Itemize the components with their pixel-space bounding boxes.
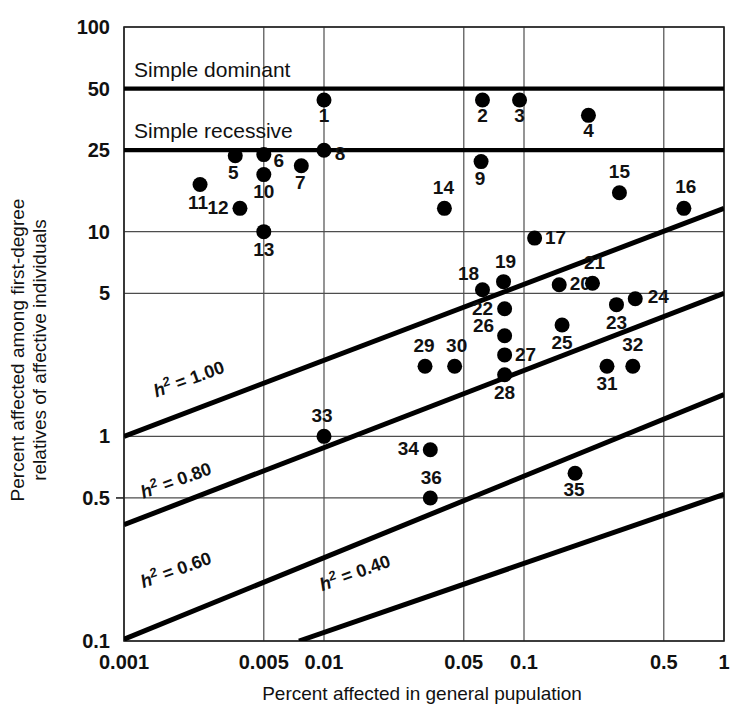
y-axis-tick-labels: 100502510510.50.1 bbox=[77, 16, 124, 652]
point-label-35: 35 bbox=[563, 479, 585, 500]
plot-canvas: 0.0010.0050.010.050.10.51 100502510510.5… bbox=[0, 0, 749, 726]
data-point-34: 34 bbox=[398, 438, 438, 459]
point-marker-32 bbox=[625, 359, 640, 374]
point-marker-31 bbox=[599, 359, 614, 374]
data-point-17: 17 bbox=[527, 227, 566, 248]
point-marker-11 bbox=[193, 177, 208, 192]
data-point-23: 23 bbox=[606, 297, 627, 333]
data-point-4: 4 bbox=[581, 108, 596, 142]
y-axis-title-line2: relatives of affective individuals bbox=[29, 219, 50, 481]
heritability-scatter-figure: 0.0010.0050.010.050.10.51 100502510510.5… bbox=[0, 0, 749, 726]
point-marker-29 bbox=[418, 359, 433, 374]
point-label-3: 3 bbox=[514, 105, 525, 126]
h2-0.60-label: h2 = 0.60 bbox=[137, 545, 214, 592]
point-label-21: 21 bbox=[584, 252, 606, 273]
point-marker-6 bbox=[256, 147, 271, 162]
point-marker-20 bbox=[552, 277, 567, 292]
point-label-34: 34 bbox=[398, 438, 420, 459]
data-point-11: 11 bbox=[188, 177, 209, 213]
point-marker-26 bbox=[497, 328, 512, 343]
point-label-6: 6 bbox=[274, 150, 285, 171]
point-label-10: 10 bbox=[253, 181, 274, 202]
data-point-10: 10 bbox=[253, 167, 274, 202]
data-point-33: 33 bbox=[311, 405, 332, 444]
point-marker-19 bbox=[496, 274, 511, 289]
point-marker-36 bbox=[423, 490, 438, 505]
data-point-8: 8 bbox=[317, 143, 346, 165]
point-label-32: 32 bbox=[622, 334, 643, 355]
point-label-2: 2 bbox=[477, 105, 488, 126]
y-tick-label-5: 5 bbox=[99, 282, 110, 304]
h2-0.60-line bbox=[124, 395, 724, 640]
data-point-31: 31 bbox=[596, 359, 618, 395]
point-label-1: 1 bbox=[319, 105, 330, 126]
point-label-24: 24 bbox=[648, 286, 670, 307]
point-label-30: 30 bbox=[446, 335, 467, 356]
data-point-26: 26 bbox=[473, 315, 512, 344]
point-label-11: 11 bbox=[188, 192, 209, 213]
y-tick-label-0.5: 0.5 bbox=[82, 487, 110, 509]
reference-line-labels: Simple dominantSimple recessive bbox=[134, 58, 293, 143]
heritability-line-labels: h2 = 1.00h2 = 0.80h2 = 0.60h2 = 0.40 bbox=[137, 354, 393, 595]
data-point-14: 14 bbox=[433, 177, 455, 216]
point-marker-12 bbox=[232, 201, 247, 216]
data-point-1: 1 bbox=[317, 92, 332, 126]
data-point-15: 15 bbox=[609, 161, 631, 201]
y-tick-label-50: 50 bbox=[88, 78, 110, 100]
point-label-13: 13 bbox=[253, 239, 274, 260]
simple-dominant-label: Simple dominant bbox=[134, 58, 291, 81]
point-label-36: 36 bbox=[421, 467, 442, 488]
data-point-19: 19 bbox=[495, 251, 516, 290]
data-point-29: 29 bbox=[413, 335, 434, 374]
data-point-18: 18 bbox=[458, 263, 490, 298]
x-axis-title: Percent affected in general pupulation bbox=[262, 683, 582, 704]
point-marker-33 bbox=[317, 429, 332, 444]
point-marker-8 bbox=[317, 143, 332, 158]
point-marker-23 bbox=[609, 297, 624, 312]
point-label-25: 25 bbox=[551, 332, 573, 353]
x-tick-label-0.005: 0.005 bbox=[239, 651, 289, 673]
point-marker-22 bbox=[497, 301, 512, 316]
point-marker-18 bbox=[475, 282, 490, 297]
point-label-12: 12 bbox=[207, 197, 228, 218]
point-label-29: 29 bbox=[413, 335, 434, 356]
point-label-28: 28 bbox=[494, 382, 515, 403]
point-marker-21 bbox=[585, 276, 600, 291]
point-marker-13 bbox=[256, 224, 271, 239]
data-point-25: 25 bbox=[551, 317, 573, 353]
point-marker-28 bbox=[497, 367, 512, 382]
point-marker-15 bbox=[612, 185, 627, 200]
point-label-23: 23 bbox=[606, 312, 627, 333]
point-marker-25 bbox=[555, 317, 570, 332]
y-tick-label-0.1: 0.1 bbox=[82, 630, 110, 652]
point-label-31: 31 bbox=[596, 373, 618, 394]
y-tick-label-25: 25 bbox=[88, 139, 110, 161]
y-axis-title-line1: Percent affected among first-degree bbox=[7, 199, 28, 502]
point-label-14: 14 bbox=[433, 177, 455, 198]
data-point-5: 5 bbox=[228, 148, 243, 183]
simple-recessive-label: Simple recessive bbox=[134, 119, 293, 142]
y-tick-label-10: 10 bbox=[88, 221, 110, 243]
point-label-5: 5 bbox=[228, 162, 239, 183]
point-marker-34 bbox=[423, 442, 438, 457]
x-axis-tick-labels: 0.0010.0050.010.050.10.51 bbox=[99, 651, 730, 673]
point-label-19: 19 bbox=[495, 251, 516, 272]
point-label-8: 8 bbox=[335, 143, 346, 164]
x-tick-label-1: 1 bbox=[718, 651, 729, 673]
point-marker-27 bbox=[497, 347, 512, 362]
data-point-9: 9 bbox=[474, 154, 489, 189]
data-point-3: 3 bbox=[512, 92, 527, 126]
data-point-21: 21 bbox=[584, 252, 606, 291]
data-point-32: 32 bbox=[622, 334, 643, 374]
point-marker-30 bbox=[447, 359, 462, 374]
point-label-16: 16 bbox=[675, 176, 696, 197]
h2-0.80-line bbox=[124, 293, 724, 524]
x-tick-label-0.01: 0.01 bbox=[305, 651, 344, 673]
data-point-20: 20 bbox=[552, 273, 591, 294]
point-marker-16 bbox=[676, 201, 691, 216]
data-point-12: 12 bbox=[207, 197, 247, 218]
point-label-7: 7 bbox=[295, 172, 306, 193]
point-marker-14 bbox=[437, 201, 452, 216]
point-label-26: 26 bbox=[473, 315, 494, 336]
x-tick-label-0.1: 0.1 bbox=[510, 651, 538, 673]
